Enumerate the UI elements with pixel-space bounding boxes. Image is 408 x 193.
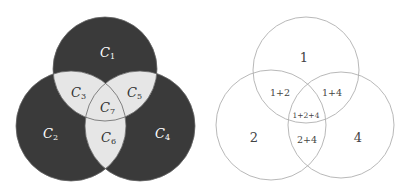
label-1-4: 1+4 — [322, 87, 342, 98]
label-1-2-4: 1+2+4 — [293, 111, 320, 120]
label-2-4: 2+4 — [297, 134, 317, 145]
label-4: 4 — [354, 130, 362, 145]
label-1: 1 — [300, 50, 308, 65]
venn-figure: C1 C2 C3 C4 C5 C6 C7 1 2 4 1+2 1+4 2+4 1… — [0, 0, 408, 193]
label-1-2: 1+2 — [270, 87, 290, 98]
outline-venn-diagram — [216, 17, 394, 180]
filled-venn-diagram: C1 C2 C3 C4 C5 C6 C7 — [16, 17, 195, 181]
label-2: 2 — [250, 130, 258, 145]
